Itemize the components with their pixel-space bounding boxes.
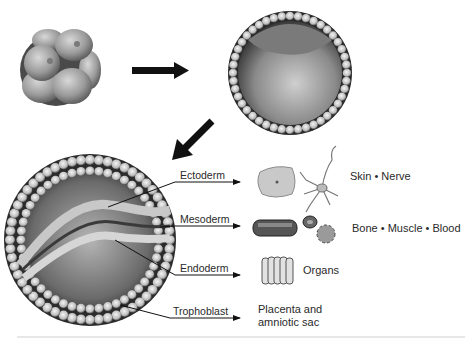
label-ectoderm: Ectoderm <box>180 169 225 181</box>
nerve-cell-icon <box>300 146 338 212</box>
arrow-blastocyst-to-gastrula <box>172 121 212 160</box>
label-mesoderm: Mesoderm <box>180 213 230 225</box>
skin-cell-icon <box>258 167 295 197</box>
morula-illustration <box>20 29 101 106</box>
result-trophoblast-line1: Placenta and <box>258 303 322 316</box>
result-mesoderm: Bone • Muscle • Blood <box>352 222 461 235</box>
label-trophoblast: Trophoblast <box>173 305 228 317</box>
blood-cell-icon <box>303 216 317 228</box>
result-endoderm: Organs <box>303 264 339 277</box>
result-trophoblast-line2: amniotic sac <box>258 316 319 329</box>
blastocyst-illustration <box>228 11 352 135</box>
label-endoderm: Endoderm <box>180 262 228 274</box>
arrow-morula-to-blastocyst <box>132 62 189 79</box>
muscle-cell-icon <box>253 220 297 236</box>
organ-cells-icon <box>262 257 293 284</box>
gastrula-illustration <box>4 154 176 326</box>
bone-cell-icon <box>317 225 335 243</box>
result-ectoderm: Skin • Nerve <box>350 170 411 183</box>
